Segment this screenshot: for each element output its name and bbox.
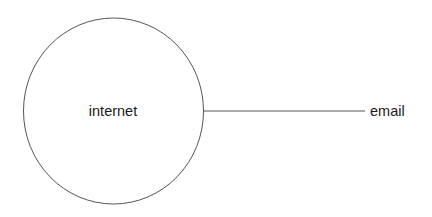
internet-node-label: internet bbox=[89, 104, 137, 119]
email-node-label: email bbox=[370, 104, 405, 119]
diagram-canvas bbox=[0, 0, 432, 217]
